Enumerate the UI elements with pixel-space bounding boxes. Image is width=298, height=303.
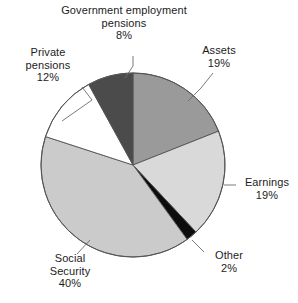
slice-label-other: Other 2% — [203, 249, 255, 274]
slice-label-government-employment-pensions: Government employment pensions 8% — [44, 4, 204, 42]
leader-line-assets — [188, 73, 213, 101]
slice-label-earnings: Earnings 19% — [237, 176, 297, 201]
pie-chart: Government employment pensions 8% Privat… — [0, 0, 298, 303]
slice-label-line: pensions — [10, 59, 86, 72]
slice-label-social-security: Social Security 40% — [34, 252, 106, 290]
slice-label-line: Assets — [186, 44, 252, 57]
slice-label-line: pensions — [44, 17, 204, 30]
slice-label-line: Security — [34, 265, 106, 278]
slice-label-line: Social — [34, 252, 106, 265]
slice-value: 19% — [186, 57, 252, 70]
slice-value: 2% — [203, 262, 255, 275]
slice-value: 19% — [237, 189, 297, 202]
slice-value: 40% — [34, 277, 106, 290]
slice-label-line: Private — [10, 46, 86, 59]
slice-value: 12% — [10, 71, 86, 84]
slice-label-line: Earnings — [237, 176, 297, 189]
slice-label-private-pensions: Private pensions 12% — [10, 46, 86, 84]
slice-label-assets: Assets 19% — [186, 44, 252, 69]
slice-label-line: Government employment — [44, 4, 204, 17]
slice-label-line: Other — [203, 249, 255, 262]
pie-slices — [41, 73, 225, 257]
slice-value: 8% — [44, 29, 204, 42]
